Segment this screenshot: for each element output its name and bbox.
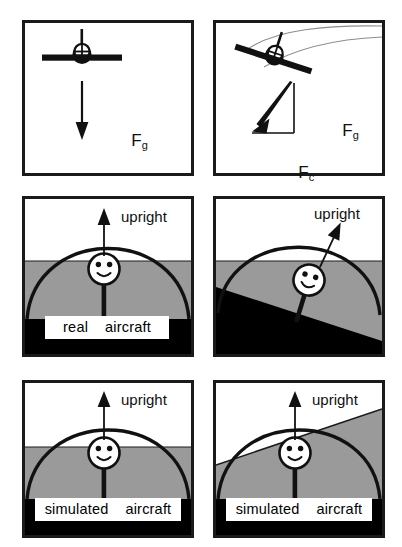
force-triangle bbox=[252, 81, 294, 134]
upright-label-mid-left: upright bbox=[121, 209, 167, 224]
fg-label-top-left: Fg bbox=[103, 115, 148, 168]
fg-label-top-right: Fg bbox=[314, 105, 359, 158]
smiley-eye-right bbox=[298, 446, 303, 451]
fc-label-top-right: Fc bbox=[270, 147, 314, 200]
upright-label-bot-left: upright bbox=[121, 392, 167, 407]
mid-right-graphic bbox=[216, 199, 382, 354]
fg-arrow-icon bbox=[76, 81, 89, 140]
smiley-eye-right bbox=[107, 262, 112, 267]
resultant-vector-shaft bbox=[257, 81, 293, 128]
panel-top-left: Fg bbox=[22, 20, 194, 176]
panel-mid-right: upright bbox=[213, 196, 385, 357]
caption-simulated-aircraft-right: simulated aircraft bbox=[226, 498, 372, 521]
smiley-face-icon bbox=[280, 438, 311, 469]
figure-root: Fg bbox=[0, 0, 402, 547]
smiley-face-icon bbox=[89, 254, 120, 285]
panel-mid-left: upright real aircraft bbox=[22, 196, 194, 357]
panel-top-right: Fg Fc bbox=[213, 20, 385, 176]
smiley-eye-left bbox=[96, 446, 101, 451]
panel-bot-left: upright simulated aircraft bbox=[22, 380, 194, 538]
fc-symbol: F bbox=[298, 163, 308, 182]
smiley-eye-left bbox=[287, 446, 292, 451]
fc-subscript: c bbox=[309, 171, 315, 183]
upright-arrow-icon bbox=[98, 391, 111, 440]
upright-label-bot-right: upright bbox=[312, 392, 358, 407]
fg-symbol: F bbox=[342, 121, 352, 140]
panel-bot-right: upright simulated aircraft bbox=[213, 380, 385, 538]
upright-arrow-icon bbox=[289, 391, 302, 440]
smiley-eye-right bbox=[107, 446, 112, 451]
fg-subscript: g bbox=[353, 129, 359, 141]
upright-label-mid-right: upright bbox=[314, 206, 360, 221]
fg-symbol: F bbox=[131, 131, 141, 150]
aircraft-rear-banked-icon bbox=[233, 23, 320, 77]
smiley-eye-left bbox=[96, 262, 101, 267]
caption-simulated-aircraft-left: simulated aircraft bbox=[35, 498, 181, 521]
fg-subscript: g bbox=[142, 139, 148, 151]
caption-real-aircraft: real aircraft bbox=[45, 316, 169, 339]
smiley-face-icon bbox=[89, 438, 120, 469]
aircraft-rear-level-icon bbox=[42, 29, 122, 64]
